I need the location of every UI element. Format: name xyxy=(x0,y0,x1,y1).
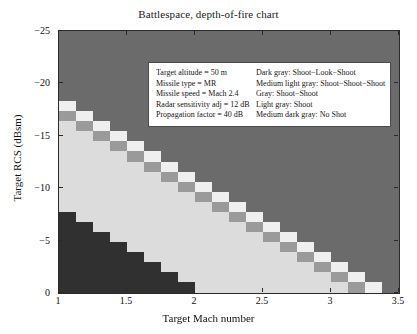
legend-key-line: Medium light gray: Shoot−Shoot−Shoot xyxy=(256,79,384,90)
legend-key-line: Gray: Shoot−Shoot xyxy=(256,89,384,100)
x-tick-mark xyxy=(126,288,127,292)
y-axis-label: Target RCS (dBsm) xyxy=(11,58,23,258)
legend-key-line: Medium dark gray: No Shot xyxy=(256,110,384,121)
legend-parameter-line: Propagation factor = 40 dB xyxy=(156,110,250,121)
y-tick-mark xyxy=(59,187,63,188)
y-tick-label: −25 xyxy=(14,25,50,36)
legend-parameter-line: Missile speed = Mach 2.4 xyxy=(156,89,250,100)
y-tick-mark xyxy=(394,135,398,136)
x-tick-label: 2.5 xyxy=(256,295,269,306)
y-tick-mark xyxy=(59,240,63,241)
legend-key-line: Light gray: Shoot xyxy=(256,100,384,111)
legend-box: Target altitude = 50 mMissile type = MRM… xyxy=(148,62,391,127)
y-tick-mark xyxy=(394,292,398,293)
x-tick-mark xyxy=(194,31,195,35)
legend-color-keys-column: Dark gray: Shoot−Look−ShootMedium light … xyxy=(256,68,384,121)
y-tick-mark xyxy=(394,82,398,83)
legend-parameter-line: Missile type = MR xyxy=(156,79,250,90)
y-tick-mark xyxy=(394,187,398,188)
legend-parameter-line: Target altitude = 50 m xyxy=(156,68,250,79)
x-tick-mark xyxy=(126,31,127,35)
x-axis-label: Target Mach number xyxy=(0,312,417,324)
x-tick-mark xyxy=(330,31,331,35)
x-tick-label: 2 xyxy=(192,295,197,306)
y-tick-mark xyxy=(59,30,63,31)
y-tick-mark xyxy=(394,30,398,31)
x-tick-label: 3 xyxy=(328,295,333,306)
legend-parameters-column: Target altitude = 50 mMissile type = MRM… xyxy=(156,68,250,121)
y-tick-mark xyxy=(394,240,398,241)
x-tick-label: 3.5 xyxy=(392,295,405,306)
y-tick-label: 0 xyxy=(14,287,50,298)
x-tick-mark xyxy=(262,31,263,35)
x-tick-mark xyxy=(398,31,399,35)
x-tick-mark xyxy=(58,31,59,35)
y-tick-mark xyxy=(59,82,63,83)
x-tick-mark xyxy=(194,288,195,292)
chart-title: Battlespace, depth-of-fire chart xyxy=(0,8,417,20)
x-tick-label: 1.5 xyxy=(120,295,133,306)
legend-parameter-line: Radar sensitivity adj = 12 dB xyxy=(156,100,250,111)
y-tick-mark xyxy=(59,135,63,136)
legend-key-line: Dark gray: Shoot−Look−Shoot xyxy=(256,68,384,79)
x-tick-mark xyxy=(262,288,263,292)
x-tick-label: 1 xyxy=(56,295,61,306)
x-tick-mark xyxy=(398,288,399,292)
x-tick-mark xyxy=(330,288,331,292)
y-tick-mark xyxy=(59,292,63,293)
chart-figure: Battlespace, depth-of-fire chart 11.522.… xyxy=(0,0,417,334)
